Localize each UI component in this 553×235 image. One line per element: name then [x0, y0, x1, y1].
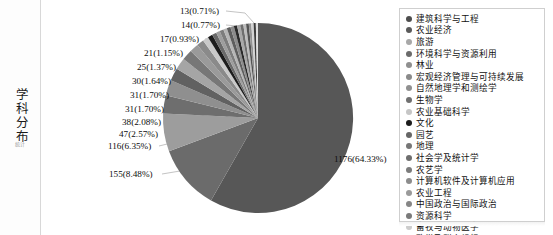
axis-label-panel: 学科分布 统计: [0, 0, 41, 235]
legend-color-swatch-icon: [406, 39, 412, 45]
pie-label-value: 21(1.15%): [144, 48, 183, 58]
legend-color-swatch-icon: [406, 143, 412, 149]
legend-item-label: 计算机软件及计算机应用: [416, 176, 515, 186]
legend-item-label: 农业基础科学: [416, 107, 470, 117]
legend-color-swatch-icon: [406, 97, 412, 103]
pie-label-value: 17(0.93%): [160, 34, 199, 44]
legend-item[interactable]: 农业工程: [406, 187, 540, 199]
legend-item[interactable]: 社会学及统计学: [406, 152, 540, 164]
legend-item-label: 旅游: [416, 37, 434, 47]
legend-item[interactable]: 宏观经济管理与可持续发展: [406, 71, 540, 83]
pie-label-value: 30(1.64%): [132, 76, 171, 86]
legend-color-swatch-icon: [406, 109, 412, 115]
pie-graphic: [158, 18, 358, 218]
legend-color-swatch-icon: [406, 16, 412, 22]
legend-color-swatch-icon: [406, 132, 412, 138]
pie-label-value: 31(1.70%): [130, 90, 169, 100]
legend-item[interactable]: 林业: [406, 59, 540, 71]
legend-color-swatch-icon: [406, 201, 412, 207]
legend-color-swatch-icon: [406, 120, 412, 126]
axis-sublabel-text: 统计: [15, 140, 25, 147]
legend-item-label: 文化: [416, 118, 434, 128]
legend-item[interactable]: 政党及群众组织: [406, 233, 540, 235]
legend-item[interactable]: 园艺: [406, 129, 540, 141]
legend-item-label: 社会学及统计学: [416, 153, 479, 163]
legend-item-label: 环境科学与资源利用: [416, 49, 497, 59]
legend-list: 建筑科学与工程 农业经济 旅游 环境科学与资源利用 林业 宏观经济管理与可持续发…: [406, 13, 540, 235]
legend-color-swatch-icon: [406, 167, 412, 173]
pie-label-value: 13(0.71%): [180, 6, 219, 16]
pie-label-value: 155(8.48%): [109, 169, 153, 179]
legend-item-label: 资源科学: [416, 211, 452, 221]
legend-color-swatch-icon: [406, 51, 412, 57]
legend-panel: 建筑科学与工程 农业经济 旅游 环境科学与资源利用 林业 宏观经济管理与可持续发…: [399, 8, 545, 222]
legend-color-swatch-icon: [406, 213, 412, 219]
pie-label-value: 38(2.08%): [122, 117, 161, 127]
legend-color-swatch-icon: [406, 27, 412, 33]
pie-label-value: 31(1.70%): [125, 104, 164, 114]
legend-item[interactable]: 农业经济: [406, 25, 540, 37]
legend-item[interactable]: 环境科学与资源利用: [406, 48, 540, 60]
legend-item[interactable]: 文化: [406, 117, 540, 129]
pie-label-value: 14(0.77%): [181, 20, 220, 30]
legend-item-label: 园艺: [416, 130, 434, 140]
legend-item-label: 农业工程: [416, 188, 452, 198]
legend-color-swatch-icon: [406, 85, 412, 91]
pie-label-value: 25(1.37%): [137, 62, 176, 72]
legend-item-label: 农业经济: [416, 25, 452, 35]
legend-item[interactable]: 农艺学: [406, 164, 540, 176]
legend-item-label: 生物学: [416, 95, 443, 105]
legend-item[interactable]: 农业基础科学: [406, 106, 540, 118]
legend-item-label: 林业: [416, 60, 434, 70]
legend-item-label: 宏观经济管理与可持续发展: [416, 72, 524, 82]
axis-label-text: 学科分布: [13, 88, 27, 144]
pie-chart-area: 13(0.71%) 14(0.77%) 17(0.93%) 21(1.15%) …: [40, 0, 380, 235]
legend-item[interactable]: 建筑科学与工程: [406, 13, 540, 25]
legend-color-swatch-icon: [406, 62, 412, 68]
chart-screenshot: 学科分布 统计: [0, 0, 553, 235]
legend-item-label: 地理: [416, 141, 434, 151]
pie-label-value: 116(6.35%): [108, 141, 151, 151]
legend-panel-shadow: [399, 222, 545, 226]
legend-item[interactable]: 中国政治与国际政治: [406, 199, 540, 211]
legend-color-swatch-icon: [406, 155, 412, 161]
legend-item-label: 政党及群众组织: [416, 234, 479, 235]
legend-item[interactable]: 旅游: [406, 36, 540, 48]
legend-item[interactable]: 地理: [406, 141, 540, 153]
pie-label-value: 1176(64.33%): [334, 154, 386, 164]
legend-item[interactable]: 资源科学: [406, 210, 540, 222]
legend-item-label: 农艺学: [416, 165, 443, 175]
legend-color-swatch-icon: [406, 74, 412, 80]
legend-item[interactable]: 自然地理学和测绘学: [406, 83, 540, 95]
pie-svg: [158, 18, 358, 218]
legend-color-swatch-icon: [406, 178, 412, 184]
legend-item[interactable]: 生物学: [406, 94, 540, 106]
legend-item-label: 自然地理学和测绘学: [416, 83, 497, 93]
legend-color-swatch-icon: [406, 190, 412, 196]
pie-label-value: 47(2.57%): [119, 129, 158, 139]
legend-item-label: 中国政治与国际政治: [416, 199, 497, 209]
legend-item[interactable]: 计算机软件及计算机应用: [406, 175, 540, 187]
legend-item-label: 建筑科学与工程: [416, 14, 479, 24]
